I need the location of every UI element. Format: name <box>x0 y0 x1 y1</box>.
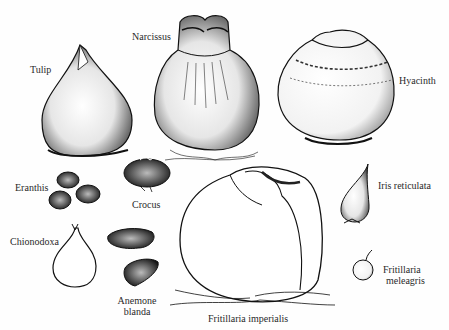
label-anemone-blanda: Anemone blanda <box>117 295 157 317</box>
anemone-blanda-tuber-icon <box>108 229 159 286</box>
label-narcissus: Narcissus <box>132 31 171 42</box>
fritillaria-imperialis-bulb-icon <box>170 167 335 305</box>
label-fritillaria-meleagris-line1: Fritillaria <box>383 264 425 275</box>
bulb-illustration: Tulip Narcissus Hyacinth Eranthis Crocus… <box>0 0 449 330</box>
label-eranthis: Eranthis <box>15 182 48 193</box>
label-hyacinth: Hyacinth <box>399 75 436 86</box>
label-fritillaria-meleagris: Fritillaria meleagris <box>383 264 425 286</box>
label-anemone-line1: Anemone <box>117 295 157 306</box>
tulip-bulb-icon <box>42 45 132 156</box>
label-tulip: Tulip <box>30 64 51 75</box>
fritillaria-meleagris-bulb-icon <box>353 250 373 280</box>
label-anemone-line2: blanda <box>117 306 157 317</box>
hyacinth-bulb-icon <box>278 30 394 144</box>
chionodoxa-bulb-icon <box>53 224 96 287</box>
bulb-drawings <box>0 0 449 330</box>
label-fritillaria-imperialis: Fritillaria imperialis <box>208 313 288 324</box>
label-crocus: Crocus <box>132 199 160 210</box>
eranthis-tuber-icon <box>49 172 100 209</box>
label-fritillaria-meleagris-line2: meleagris <box>383 275 425 286</box>
crocus-corm-icon <box>124 156 170 192</box>
iris-reticulata-bulb-icon <box>341 164 369 223</box>
label-chionodoxa: Chionodoxa <box>10 236 59 247</box>
label-iris-reticulata: Iris reticulata <box>378 180 431 191</box>
